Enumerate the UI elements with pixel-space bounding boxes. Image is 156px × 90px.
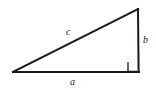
horizontal-leg-label: a — [70, 77, 75, 87]
figure-background — [0, 0, 156, 90]
right-triangle-figure: c b a — [0, 0, 156, 90]
vertical-leg-side-b — [138, 9, 139, 72]
hypotenuse-label: c — [66, 27, 70, 37]
vertical-leg-label: b — [143, 35, 148, 45]
triangle-drawing — [0, 0, 156, 90]
